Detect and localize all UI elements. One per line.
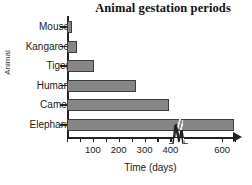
x-tick	[67, 137, 68, 142]
bar-human	[67, 80, 136, 92]
bar-row: Human	[0, 79, 252, 93]
bar-row: Tiger	[0, 59, 252, 73]
x-tick	[235, 137, 236, 142]
x-axis-label: Time (days)	[67, 162, 234, 173]
x-tick	[93, 137, 94, 142]
chart-title: Animal gestation periods	[78, 1, 248, 16]
bar-mouse	[67, 21, 72, 33]
bar-tiger	[67, 60, 94, 72]
x-tick	[222, 137, 223, 142]
axis-break-icon	[167, 118, 189, 144]
x-tick	[80, 137, 81, 142]
bar-kangaroo	[67, 41, 77, 53]
x-tick	[106, 137, 107, 142]
chart-container: Animal gestation periods Animal MouseKan…	[0, 0, 252, 185]
bar-row: Camel	[0, 98, 252, 112]
bar-row: Kangaroo	[0, 40, 252, 54]
x-tick	[119, 137, 120, 142]
bar-elephant	[67, 119, 234, 131]
bar-camel	[67, 99, 169, 111]
x-tick	[132, 137, 133, 142]
bar-row: Mouse	[0, 20, 252, 34]
x-tick	[145, 137, 146, 142]
bar-row: Elephant	[0, 118, 252, 132]
x-tick-label-600: 600	[207, 144, 237, 155]
x-tick-label-400: 400	[155, 144, 185, 155]
x-tick	[157, 137, 158, 142]
